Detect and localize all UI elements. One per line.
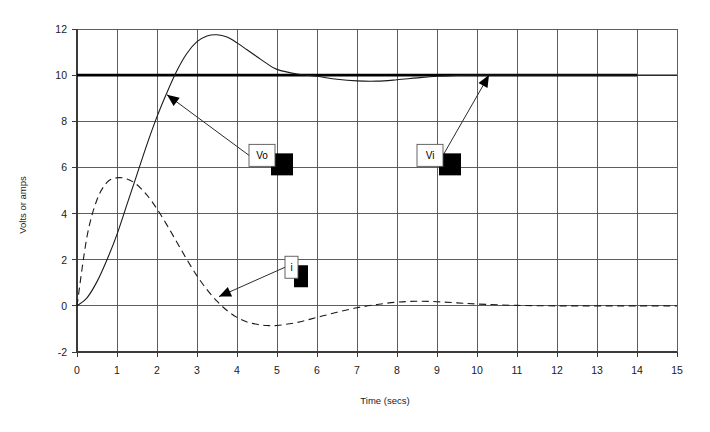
x-tick-label: 12 [551, 364, 563, 376]
x-tick-label: 7 [354, 364, 360, 376]
callout-label-i: i [290, 262, 292, 273]
y-tick-label: 12 [55, 23, 67, 35]
x-tick-label: 6 [314, 364, 320, 376]
y-tick-label: 2 [61, 254, 67, 266]
y-tick-label: 0 [61, 300, 67, 312]
x-tick-label: 3 [194, 364, 200, 376]
x-tick-label: 11 [512, 364, 523, 376]
y-tick-label: 10 [55, 69, 67, 81]
x-tick-label: 5 [274, 364, 280, 376]
callout-label-vi: Vi [426, 150, 435, 161]
chart-figure: VoVii 0123456789101112131415 -2024681012… [0, 0, 710, 432]
x-tick-label: 9 [434, 364, 440, 376]
y-tick-label: 6 [61, 161, 67, 173]
x-tick-label: 15 [671, 364, 683, 376]
step-response-line-chart: VoVii 0123456789101112131415 -2024681012… [0, 0, 710, 432]
y-tick-label: 8 [61, 115, 67, 127]
x-tick-label: 8 [394, 364, 400, 376]
x-tick-label: 2 [154, 364, 160, 376]
x-axis-title: Time (secs) [360, 395, 409, 406]
y-axis-title: Volts or amps [17, 176, 28, 234]
x-tick-label: 1 [114, 364, 120, 376]
y-tick-label: 4 [61, 208, 67, 220]
x-tick-label: 0 [74, 364, 80, 376]
x-tick-label: 14 [631, 364, 643, 376]
y-tick-label: -2 [58, 346, 67, 358]
x-tick-label: 13 [591, 364, 603, 376]
x-tick-label: 4 [234, 364, 240, 376]
callout-label-vo: Vo [256, 150, 268, 161]
x-tick-label: 10 [471, 364, 483, 376]
